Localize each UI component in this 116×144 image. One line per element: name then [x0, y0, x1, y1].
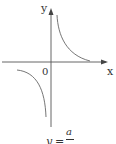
- equation-lhs: y: [46, 135, 52, 144]
- hyperbola-branch-quadrant-1: [57, 15, 90, 61]
- hyperbola-branch-quadrant-3: [17, 70, 46, 117]
- y-axis-label: y: [40, 2, 48, 15]
- equation-equals: =: [55, 135, 64, 144]
- equation-caption: y = a: [46, 128, 86, 144]
- y-axis-arrow-icon: [49, 8, 54, 15]
- equation-numerator: a: [66, 126, 72, 137]
- x-axis-label: x: [107, 65, 114, 78]
- graph-canvas: y x 0: [0, 0, 116, 144]
- x-axis-arrow-icon: [101, 60, 108, 65]
- hyperbola-figure: y x 0 y = a: [0, 0, 116, 144]
- origin-label: 0: [42, 66, 48, 77]
- fraction-bar: [66, 139, 74, 140]
